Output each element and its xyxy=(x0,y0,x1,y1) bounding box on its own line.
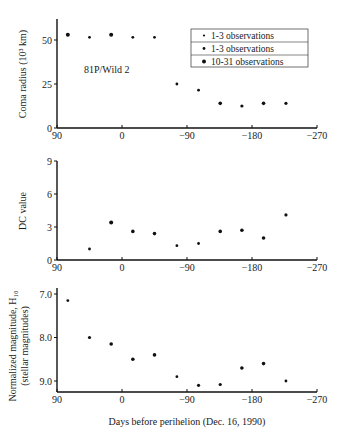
x-tick-label: 0 xyxy=(120,262,125,273)
x-tick-label: −270 xyxy=(307,130,328,141)
data-point xyxy=(66,299,69,302)
x-tick-label: −90 xyxy=(179,262,195,273)
y-tick-label: 50 xyxy=(42,35,52,46)
data-point xyxy=(109,342,113,346)
x-tick-label: −90 xyxy=(179,394,195,405)
data-point xyxy=(218,102,222,106)
y-tick-label: 8.0 xyxy=(40,332,53,343)
x-tick-label: −90 xyxy=(179,130,195,141)
legend: 1-3 observations 1-3 observations 10-31 … xyxy=(191,29,308,67)
legend-marker-large-icon xyxy=(202,60,206,64)
data-point xyxy=(153,36,156,39)
panel1-ylabel: Coma radius (10³ km) xyxy=(17,30,29,118)
x-tick-label: 0 xyxy=(120,394,125,405)
y-tick-label: 6 xyxy=(47,189,52,200)
y-tick-label: 25 xyxy=(42,79,52,90)
x-tick-label: 90 xyxy=(52,394,62,405)
panel2-ylabel: DC value xyxy=(17,191,28,230)
x-tick-label: 90 xyxy=(52,130,62,141)
data-point xyxy=(285,380,288,383)
legend-marker-small-icon xyxy=(203,34,205,36)
data-point xyxy=(284,102,287,105)
data-point xyxy=(175,375,178,378)
x-tick-label: −270 xyxy=(307,394,328,405)
data-point xyxy=(262,236,266,240)
data-point xyxy=(153,232,157,236)
panel3-ylabel-line1: Normalized magnitude, H₁₀ xyxy=(7,290,18,402)
data-point xyxy=(240,229,244,233)
y-tick-label: 9.0 xyxy=(40,376,53,387)
data-point xyxy=(240,366,244,370)
legend-entry-1: 1-3 observations xyxy=(211,31,274,41)
y-tick-label: 7.0 xyxy=(40,289,53,300)
data-point xyxy=(175,244,178,247)
data-point xyxy=(131,230,135,234)
x-tick-label: −180 xyxy=(242,394,263,405)
data-point xyxy=(131,36,134,39)
data-point xyxy=(175,83,178,86)
data-point xyxy=(197,89,200,92)
x-axis-label: Days before perihelion (Dec. 16, 1990) xyxy=(109,416,266,428)
data-point xyxy=(66,33,70,37)
data-point xyxy=(197,384,200,387)
x-tick-label: −180 xyxy=(242,130,263,141)
x-tick-label: 90 xyxy=(52,262,62,273)
x-tick-label: −180 xyxy=(242,262,263,273)
data-point xyxy=(88,36,91,39)
data-point xyxy=(88,248,91,251)
y-tick-label: 3 xyxy=(47,222,52,233)
x-tick-label: 0 xyxy=(120,130,125,141)
data-point xyxy=(109,33,113,37)
data-point xyxy=(218,230,222,234)
data-point xyxy=(88,336,91,339)
data-point xyxy=(219,383,222,386)
data-point xyxy=(131,357,135,361)
legend-entry-3: 10-31 observations xyxy=(211,57,284,67)
data-point xyxy=(262,102,266,106)
panel-2: 900−90−180−2700369 xyxy=(47,156,327,274)
comet-wild2-chart: 900−90−180−27002550900−90−180−2700369900… xyxy=(0,0,344,442)
data-point xyxy=(262,362,266,366)
legend-marker-medium-icon xyxy=(203,47,206,50)
data-point xyxy=(197,242,200,245)
y-tick-label: 9 xyxy=(47,156,52,167)
data-point xyxy=(284,213,287,216)
y-tick-label: 0 xyxy=(47,255,52,266)
legend-entry-2: 1-3 observations xyxy=(211,44,274,54)
x-tick-label: −270 xyxy=(307,262,328,273)
panel3-ylabel-line2: (stellar magnitudes) xyxy=(19,306,31,386)
panel-3: 900−90−180−2707.08.09.0 xyxy=(40,288,328,405)
data-point xyxy=(109,221,113,225)
y-tick-label: 0 xyxy=(47,123,52,134)
data-point xyxy=(153,353,157,357)
data-point xyxy=(240,104,243,107)
panel1-annotation: 81P/Wild 2 xyxy=(84,64,129,75)
